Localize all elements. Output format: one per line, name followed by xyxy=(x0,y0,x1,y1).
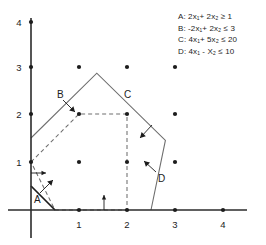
label-a: A xyxy=(34,194,41,205)
lattice-point xyxy=(173,112,177,116)
lattice-point xyxy=(125,112,129,116)
x-tick-label-4: 4 xyxy=(220,219,225,230)
x-tick-3 xyxy=(173,208,177,212)
label-c: C xyxy=(124,89,131,100)
lattice-point xyxy=(77,65,81,69)
lattice-point xyxy=(173,65,177,69)
x-tick-label-1: 1 xyxy=(76,219,81,230)
label-b: B xyxy=(57,89,64,100)
y-tick-label-4: 4 xyxy=(16,17,21,28)
lattice-point xyxy=(125,65,129,69)
x-tick-1 xyxy=(77,208,81,212)
lattice-point xyxy=(173,160,177,164)
y-tick-4 xyxy=(29,20,33,24)
arrow-up-head xyxy=(102,195,106,200)
x-tick-label-2: 2 xyxy=(124,219,129,230)
legend-item-d: D: 4x₁ - X₂ ≤ 10 xyxy=(178,46,264,58)
label-d: D xyxy=(158,173,165,184)
lattice-point xyxy=(77,160,81,164)
x-tick-2 xyxy=(125,208,129,212)
y-tick-2 xyxy=(29,112,33,116)
y-tick-label-3: 3 xyxy=(16,62,21,73)
y-tick-label-2: 2 xyxy=(16,109,21,120)
constraint-region-labels: A B C D xyxy=(34,89,165,205)
lattice-point xyxy=(77,112,81,116)
constraint-legend: A: 2x₁+ 2x₂ ≥ 1 B: -2x₁+ 2x₂ ≤ 3 C: 4x₁+… xyxy=(178,11,264,57)
arrow-right-head xyxy=(42,171,47,175)
x-tick-label-3: 3 xyxy=(172,219,177,230)
y-tick-1 xyxy=(29,160,33,164)
y-tick-3 xyxy=(29,65,33,69)
legend-item-c: C: 4x₁+ 5x₂ ≤ 20 xyxy=(178,34,264,46)
legend-item-a: A: 2x₁+ 2x₂ ≥ 1 xyxy=(178,11,264,23)
legend-item-b: B: -2x₁+ 2x₂ ≤ 3 xyxy=(178,23,264,35)
y-tick-label-1: 1 xyxy=(16,157,21,168)
x-tick-4 xyxy=(221,208,225,212)
lattice-point xyxy=(125,160,129,164)
lp-feasible-region-figure: 4 3 2 1 1 2 3 4 A B C D A: 2x₁+ 2x₂ ≥ 1 … xyxy=(0,0,266,245)
